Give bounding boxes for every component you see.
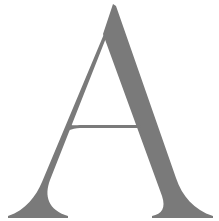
letter-a-glyph: A <box>0 0 219 221</box>
letter-a-icon <box>0 0 219 221</box>
